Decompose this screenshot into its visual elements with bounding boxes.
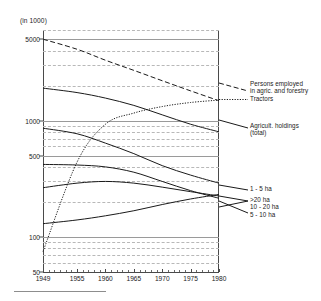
agriculture-trend-chart: (in 1000) 5000100050010050 1949195519601… xyxy=(0,0,321,301)
x-tick-label: 1960 xyxy=(98,275,113,282)
series-line xyxy=(43,128,219,183)
legend-persons-employed: Persons employed in agric. and forestry xyxy=(250,80,308,95)
y-axis-unit-label: (in 1000) xyxy=(20,17,47,24)
x-tick-mark xyxy=(219,269,220,272)
bottom-rule xyxy=(14,291,106,292)
series-lines xyxy=(43,30,219,272)
legend-5-10ha: 5 - 10 ha xyxy=(250,211,275,218)
x-tick-label: 1970 xyxy=(155,275,170,282)
plot-area: 5000100050010050 19491955196019651970197… xyxy=(43,30,219,272)
y-tick-label: 1000 xyxy=(25,117,40,124)
x-tick-label: 1980 xyxy=(212,275,227,282)
series-line xyxy=(43,88,219,132)
series-line xyxy=(43,181,219,196)
x-tick-label: 1949 xyxy=(36,275,51,282)
legend-tractors: Tractors xyxy=(250,95,273,102)
x-tick-label: 1955 xyxy=(70,275,85,282)
legend-holdings-total: Agricult. holdings (total) xyxy=(250,122,299,137)
x-tick-label: 1965 xyxy=(126,275,141,282)
legend-10-20ha: 10 - 20 ha xyxy=(250,203,279,210)
y-tick-label: 5000 xyxy=(25,36,40,43)
series-line xyxy=(43,194,219,223)
legend-1-5ha: 1 - 5 ha xyxy=(250,185,272,192)
series-line xyxy=(43,164,219,198)
x-tick-label: 1975 xyxy=(183,275,198,282)
